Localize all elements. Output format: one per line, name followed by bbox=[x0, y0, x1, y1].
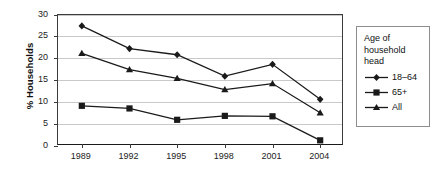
x-axis-tick-label: 1989 bbox=[61, 152, 101, 161]
x-axis-tick-label: 2004 bbox=[299, 152, 339, 161]
legend-label: 65+ bbox=[392, 87, 407, 98]
data-point-marker bbox=[79, 103, 85, 109]
data-point-marker bbox=[269, 80, 276, 86]
y-axis-tick-label: 0 bbox=[28, 141, 48, 150]
data-point-marker bbox=[222, 113, 228, 119]
y-axis-tick-label: 25 bbox=[28, 31, 48, 40]
legend-marker-square bbox=[364, 86, 390, 99]
data-point-marker bbox=[222, 73, 229, 80]
y-axis-tick-label: 10 bbox=[28, 97, 48, 106]
x-axis-tick-label: 1995 bbox=[156, 152, 196, 161]
series-line bbox=[82, 53, 320, 112]
data-point-marker bbox=[317, 137, 323, 143]
data-point-marker bbox=[317, 96, 324, 103]
legend-marker-triangle bbox=[364, 101, 390, 114]
y-axis-tick-label: 30 bbox=[28, 10, 48, 19]
legend-title: Age of household head bbox=[364, 33, 428, 68]
data-point-marker bbox=[78, 50, 85, 56]
plot-area bbox=[57, 14, 343, 145]
x-axis-tick-label: 1992 bbox=[109, 152, 149, 161]
y-axis-tick-label: 15 bbox=[28, 75, 48, 84]
y-axis-tick-label: 20 bbox=[28, 53, 48, 62]
legend-item-65plus[interactable]: 65+ bbox=[364, 86, 430, 99]
legend-title-line-1: Age of bbox=[364, 33, 428, 45]
x-axis-tick-label: 1998 bbox=[204, 152, 244, 161]
data-point-marker bbox=[373, 89, 379, 95]
legend-item-18-64[interactable]: 18–64 bbox=[364, 71, 430, 84]
data-point-marker bbox=[126, 45, 133, 52]
series-lines bbox=[58, 15, 344, 146]
legend-title-line-3: head bbox=[364, 56, 428, 68]
data-point-marker bbox=[373, 74, 380, 81]
data-point-marker bbox=[174, 51, 181, 58]
data-point-marker bbox=[174, 117, 180, 123]
legend-label: 18–64 bbox=[392, 72, 417, 83]
y-axis-tick-label: 5 bbox=[28, 119, 48, 128]
x-axis-tick-label: 2001 bbox=[252, 152, 292, 161]
data-point-marker bbox=[126, 105, 132, 111]
chart-container: % Households 051015202530 19891992199519… bbox=[0, 0, 437, 180]
data-point-marker bbox=[269, 61, 276, 68]
series-line bbox=[82, 106, 320, 140]
legend-label: All bbox=[392, 102, 402, 113]
series-line bbox=[82, 26, 320, 99]
data-point-marker bbox=[317, 109, 324, 115]
legend-box: Age of household head 18–6465+All bbox=[356, 26, 430, 127]
legend-marker-diamond bbox=[364, 71, 390, 84]
legend-item-all[interactable]: All bbox=[364, 101, 430, 114]
data-point-marker bbox=[269, 113, 275, 119]
legend-title-line-2: household bbox=[364, 45, 428, 57]
data-point-marker bbox=[79, 22, 86, 29]
